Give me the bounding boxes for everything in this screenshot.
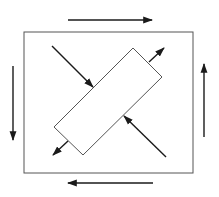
tension-arrow-bottom-left-icon xyxy=(53,141,68,155)
diagram-canvas xyxy=(0,0,219,197)
compression-arrow-top-left-icon xyxy=(52,46,93,87)
compression-arrow-bottom-right-icon xyxy=(124,116,166,157)
tension-arrow-top-right-icon xyxy=(149,48,164,62)
shear-stress-diagram xyxy=(0,0,219,197)
